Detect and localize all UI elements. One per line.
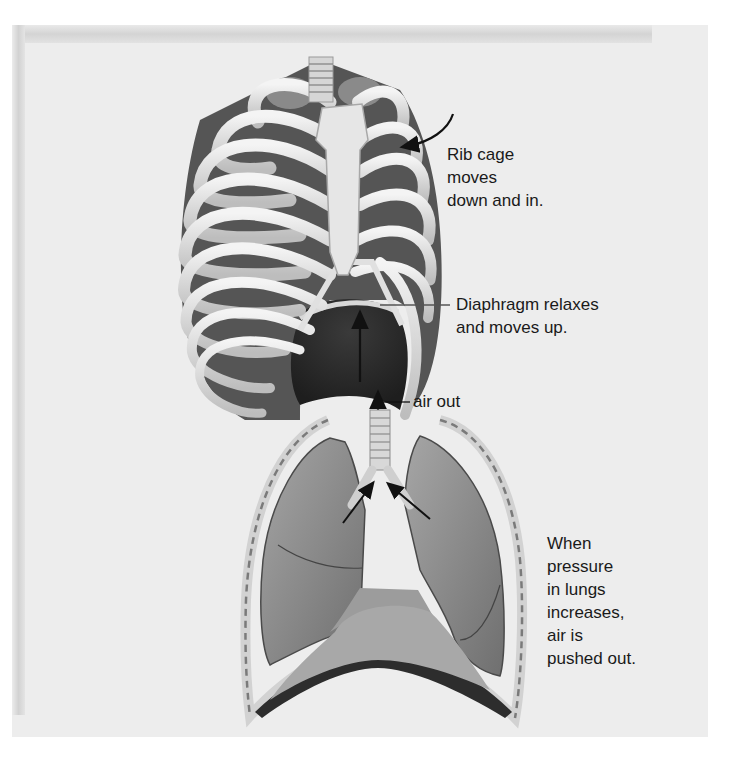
air-out-label: air out <box>413 390 460 413</box>
rib-cage-label: Rib cage moves down and in. <box>447 143 543 212</box>
rib-cage <box>181 57 442 420</box>
pressure-label: When pressure in lungs increases, air is… <box>547 532 636 670</box>
trachea-lower <box>370 410 390 470</box>
thorax-section <box>245 410 522 718</box>
diaphragm-label: Diaphragm relaxes and moves up. <box>456 293 599 339</box>
